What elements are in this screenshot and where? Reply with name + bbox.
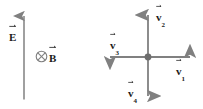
vector-v2-label: v 2 <box>156 8 165 27</box>
b-into-page-icon-graphic <box>36 51 47 62</box>
vector-v4-label: v 4 <box>128 84 137 103</box>
magnetic-field-label: B <box>49 49 56 65</box>
electric-field-label: E <box>9 28 16 44</box>
vector-v1-label: v 1 <box>176 62 185 81</box>
vector-v3-label: v 3 <box>110 36 119 55</box>
diagram-graphics <box>0 0 203 109</box>
physics-field-vector-diagram: E B v 2 <box>0 0 203 109</box>
origin-dot-graphic <box>145 54 152 61</box>
